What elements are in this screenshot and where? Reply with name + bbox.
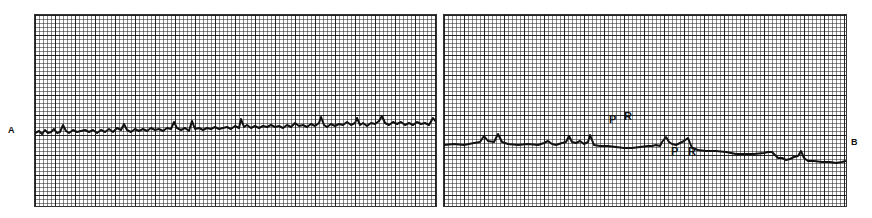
r-wave-label: R: [688, 145, 696, 157]
ecg-strip-b: P R P R: [443, 14, 847, 207]
ecg-trace-a: [35, 15, 436, 206]
p-wave-label: P: [671, 145, 678, 157]
p-wave-label: P: [609, 113, 616, 125]
r-wave-label: R: [624, 110, 632, 122]
panel-b-label: B: [851, 137, 858, 147]
ecg-strip-a: [34, 14, 437, 207]
panel-a-label: A: [8, 125, 15, 135]
ecg-trace-b: P R P R: [444, 15, 846, 206]
